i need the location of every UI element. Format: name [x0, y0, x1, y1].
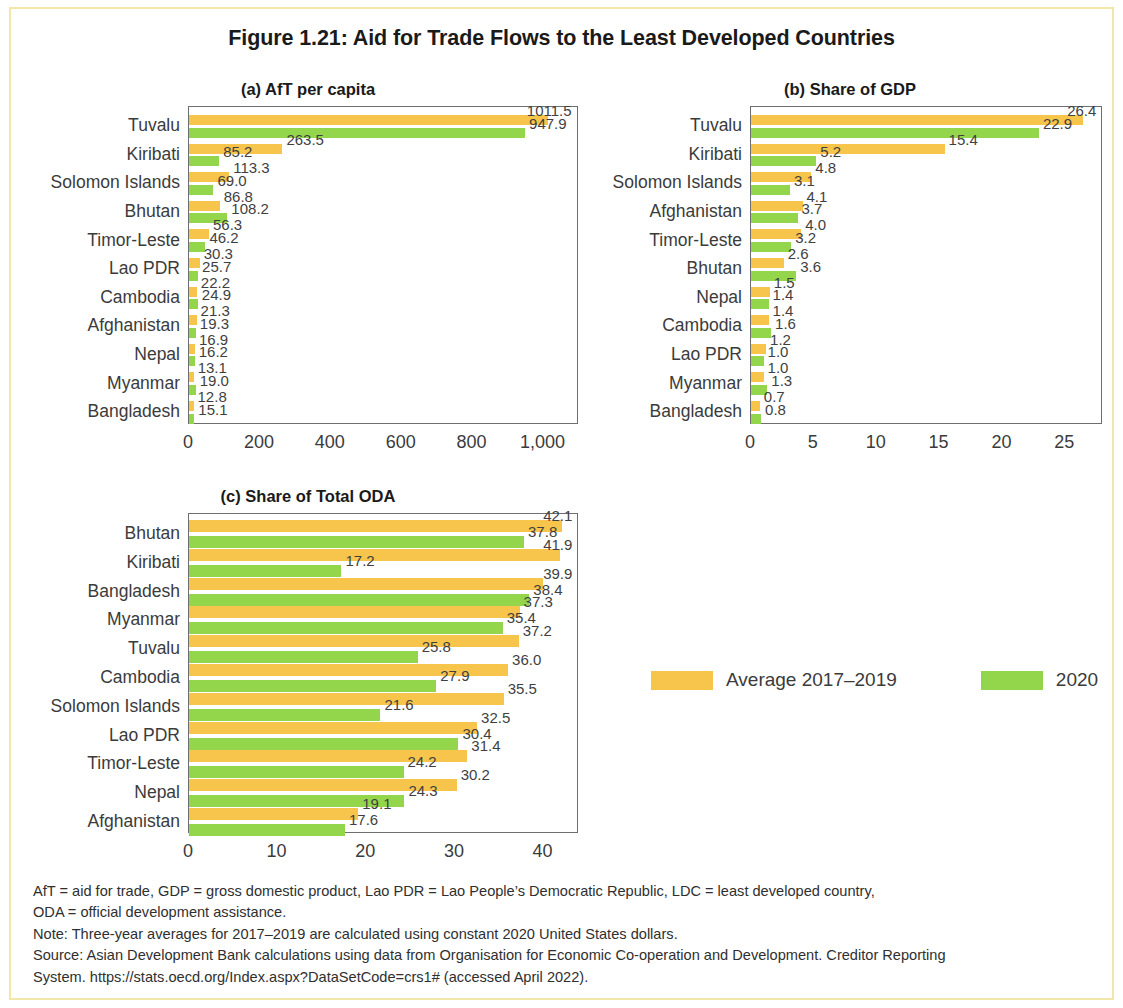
chart-a-bar-y2020 [189, 356, 195, 366]
chart-b-bar-y2020 [751, 328, 771, 338]
chart-a-xtick: 1,000 [520, 432, 565, 453]
chart-b-category-label: Kiribati [689, 146, 743, 164]
chart-a-bar-y2020 [189, 185, 213, 195]
chart-b-bar-y2020 [751, 156, 816, 166]
chart-a-title: (a) AfT per capita [28, 80, 588, 99]
legend-swatch-average-icon [651, 671, 713, 690]
chart-a-xtick: 800 [457, 432, 487, 453]
chart-c-category-label: Nepal [134, 784, 180, 802]
chart-c-bar-value: 17.2 [345, 553, 374, 568]
chart-b-plot-area: 26.422.915.45.24.83.14.13.74.03.22.63.61… [750, 106, 1102, 424]
chart-b-bar-value: 15.4 [949, 132, 978, 147]
chart-c-bar-avg [189, 578, 543, 590]
chart-a-xtick: 600 [386, 432, 416, 453]
chart-b-category-label: Bhutan [687, 260, 742, 278]
chart-b-bar-avg [751, 287, 770, 297]
chart-a-bar-avg [189, 115, 548, 125]
chart-b-bar-avg [751, 372, 764, 382]
chart-a-category-label: Bangladesh [88, 403, 180, 421]
chart-c-bar-y2020 [189, 709, 380, 721]
note-line-source-1: Source: Asian Development Bank calculati… [33, 945, 1103, 966]
note-line-source-2: System. https://stats.oecd.org/Index.asp… [33, 967, 1103, 988]
chart-c-bar-avg [189, 549, 560, 561]
chart-b-bar-y2020 [751, 128, 1039, 138]
figure-notes: AfT = aid for trade, GDP = gross domesti… [33, 881, 1103, 988]
chart-a-bar-avg [189, 229, 209, 239]
chart-c-bar-value: 35.5 [508, 681, 537, 696]
chart-b-category-label: Timor-Leste [649, 232, 742, 250]
chart-b-title: (b) Share of GDP [590, 80, 1110, 99]
chart-a-bar-value: 19.3 [200, 316, 229, 331]
chart-a-bar-avg [189, 287, 197, 297]
chart-b-bar-value: 1.3 [771, 373, 792, 388]
chart-c-category-label: Bhutan [125, 525, 180, 543]
chart-a-bar-avg [189, 201, 220, 211]
chart-c-title: (c) Share of Total ODA [28, 487, 588, 506]
chart-c-category-labels: BhutanKiribatiBangladeshMyanmarTuvaluCam… [28, 513, 180, 833]
chart-c-bar-value: 31.4 [471, 738, 500, 753]
chart-b-category-label: Lao PDR [671, 346, 742, 364]
chart-c-bar-value: 42.1 [543, 508, 572, 523]
chart-b-bar-avg [751, 144, 945, 154]
chart-b-bar-value: 3.6 [800, 259, 821, 274]
chart-a-category-label: Timor-Leste [87, 232, 180, 250]
chart-a-bar-y2020 [189, 414, 194, 424]
chart-b-category-label: Myanmar [669, 375, 742, 393]
chart-c-category-label: Cambodia [100, 669, 180, 687]
chart-b-bar-value: 1.6 [775, 316, 796, 331]
chart-b-bar-avg [751, 258, 784, 268]
chart-b-bar-value: 3.1 [794, 173, 815, 188]
chart-c-bar-value: 24.3 [408, 783, 437, 798]
chart-c-bar-value: 37.3 [524, 594, 553, 609]
chart-b-bar-avg [751, 344, 766, 354]
chart-a-bar-value: 46.2 [209, 230, 238, 245]
chart-panel-a: (a) AfT per capita TuvaluKiribatiSolomon… [28, 80, 588, 480]
chart-c-bar-value: 41.9 [543, 537, 572, 552]
chart-a-bar-avg [189, 315, 197, 325]
chart-c-bar-y2020 [189, 766, 404, 778]
chart-c-bar-value: 21.6 [384, 697, 413, 712]
chart-c-bar-value: 39.9 [543, 566, 572, 581]
figure-title: Figure 1.21: Aid for Trade Flows to the … [0, 26, 1123, 51]
chart-c-category-label: Myanmar [107, 611, 180, 629]
chart-b-category-label: Cambodia [662, 317, 742, 335]
chart-c-xtick: 40 [533, 841, 553, 862]
chart-a-bar-avg [189, 258, 200, 268]
chart-a-category-label: Myanmar [107, 375, 180, 393]
chart-c-bar-avg [189, 635, 519, 647]
chart-c-category-label: Solomon Islands [51, 698, 180, 716]
chart-b-xtick: 0 [745, 432, 755, 453]
chart-a-category-label: Lao PDR [109, 260, 180, 278]
chart-a-bar-y2020 [189, 328, 196, 338]
chart-a-bar-value: 947.9 [529, 116, 567, 131]
chart-a-bar-value: 25.7 [202, 259, 231, 274]
chart-a-xtick: 200 [244, 432, 274, 453]
chart-a-category-labels: TuvaluKiribatiSolomon IslandsBhutanTimor… [28, 106, 180, 424]
chart-b-xtick: 25 [1054, 432, 1074, 453]
chart-a-category-label: Nepal [134, 346, 180, 364]
chart-c-bar-y2020 [189, 622, 503, 634]
chart-b-bar-value: 1.4 [773, 287, 794, 302]
chart-b-bar-avg [751, 201, 803, 211]
chart-a-plot-area: 1011.5947.9263.585.2113.369.086.8108.256… [188, 106, 578, 424]
chart-a-category-label: Kiribati [127, 146, 181, 164]
chart-b-category-label: Solomon Islands [613, 174, 742, 192]
chart-a-bar-value: 16.2 [199, 344, 228, 359]
chart-b-bar-y2020 [751, 356, 764, 366]
chart-a-bar-value: 263.5 [286, 132, 324, 147]
legend-item-average: Average 2017–2019 [651, 669, 897, 691]
chart-a-bar-value: 24.9 [202, 287, 231, 302]
chart-b-bar-avg [751, 401, 760, 411]
chart-b-xtick: 15 [929, 432, 949, 453]
chart-a-xtick: 400 [315, 432, 345, 453]
chart-c-category-label: Tuvalu [128, 640, 180, 658]
chart-c-bar-y2020 [189, 738, 458, 750]
chart-b-bar-avg [751, 229, 801, 239]
chart-b-bar-y2020 [751, 185, 790, 195]
chart-c-bar-avg [189, 606, 520, 618]
chart-c-bar-avg [189, 520, 562, 532]
chart-b-xtick: 5 [808, 432, 818, 453]
chart-b-bar-value: 1.0 [768, 344, 789, 359]
chart-a-bar-value: 108.2 [231, 201, 269, 216]
chart-c-xtick: 30 [444, 841, 464, 862]
